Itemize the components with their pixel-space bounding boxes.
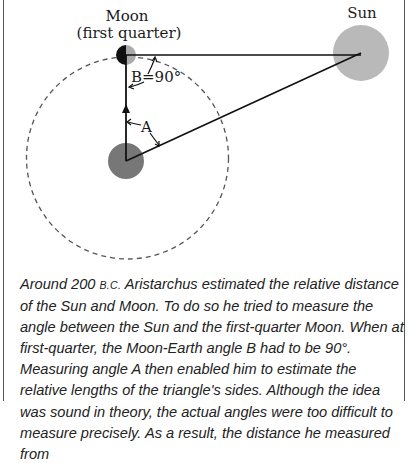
caption-prefix: Around 200 xyxy=(20,276,100,292)
arrowhead-icon xyxy=(122,104,130,113)
sun-label: Sun xyxy=(347,4,377,22)
moon-label: Moon xyxy=(105,7,148,25)
moon-phase-label: (first quarter) xyxy=(77,24,182,42)
caption-text: Aristarchus estimated the relative dista… xyxy=(20,276,404,462)
figure-caption: Around 200 B.C. Aristarchus estimated th… xyxy=(20,274,404,463)
aristarchus-diagram: B=90° A Moon (first quarter) Sun xyxy=(0,0,410,270)
caption-era: B.C. xyxy=(100,279,122,291)
angle-a-label: A xyxy=(140,118,152,136)
angle-b-label: B=90° xyxy=(131,68,181,86)
